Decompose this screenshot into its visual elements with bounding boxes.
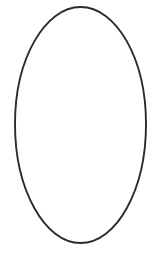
- shape-canvas: [0, 0, 161, 268]
- drawing-canvas: [0, 0, 161, 268]
- canvas-background: [0, 0, 161, 268]
